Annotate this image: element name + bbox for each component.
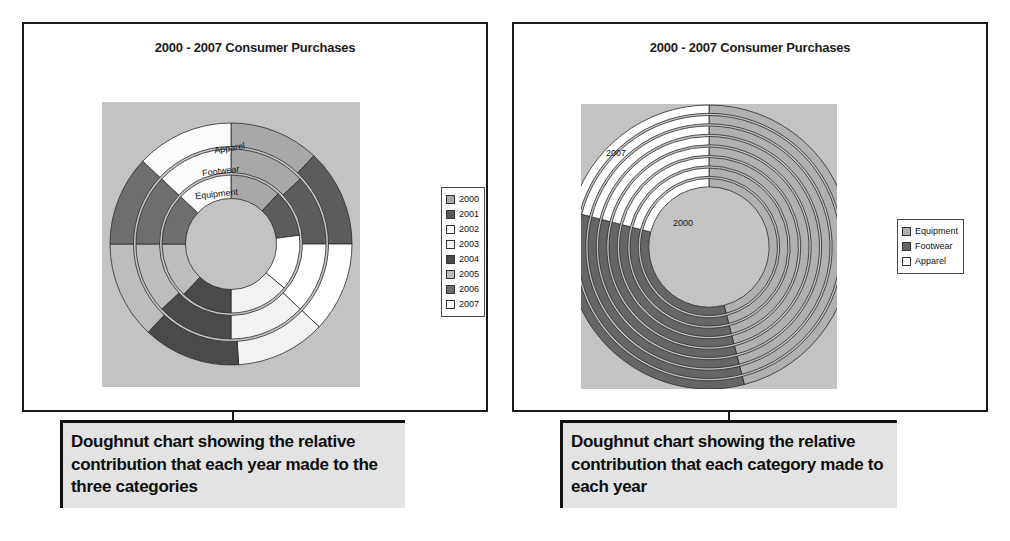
legend-item[interactable]: 2000 [446, 192, 479, 207]
legend-label: 2002 [459, 225, 479, 234]
ring-label-2000: 2000 [673, 218, 693, 228]
caption-box-left: Doughnut chart showing the relative cont… [60, 420, 405, 508]
legend-label: 2004 [459, 255, 479, 264]
legend-left[interactable]: 2000 2001 2002 2003 2004 2005 2006 2007 [441, 187, 485, 317]
legend-label: 2003 [459, 240, 479, 249]
chart-panel-left: 2000 - 2007 Consumer Purchases Apparel F… [22, 22, 488, 412]
caption-text-right: Doughnut chart showing the relative cont… [571, 431, 887, 499]
legend-item[interactable]: 2004 [446, 252, 479, 267]
doughnut-hole [651, 189, 767, 305]
legend-item[interactable]: Equipment [902, 224, 958, 239]
chart-title-right: 2000 - 2007 Consumer Purchases [514, 40, 986, 55]
legend-swatch-icon [902, 242, 911, 251]
legend-label: 2005 [459, 270, 479, 279]
legend-label: 2000 [459, 195, 479, 204]
plot-area-right: 2007 2000 [581, 104, 837, 389]
legend-label: Footwear [915, 242, 953, 251]
legend-label: 2001 [459, 210, 479, 219]
legend-item[interactable]: 2003 [446, 237, 479, 252]
legend-item[interactable]: 2002 [446, 222, 479, 237]
legend-swatch-icon [446, 240, 455, 249]
doughnut-chart-by-category [581, 104, 837, 389]
legend-item[interactable]: Apparel [902, 254, 958, 269]
doughnut-hole [188, 201, 274, 287]
legend-label: Apparel [915, 257, 946, 266]
legend-item[interactable]: 2005 [446, 267, 479, 282]
legend-label: Equipment [915, 227, 958, 236]
legend-swatch-icon [446, 270, 455, 279]
legend-item[interactable]: 2001 [446, 207, 479, 222]
legend-swatch-icon [446, 195, 455, 204]
legend-swatch-icon [446, 300, 455, 309]
legend-swatch-icon [446, 285, 455, 294]
legend-item[interactable]: Footwear [902, 239, 958, 254]
legend-swatch-icon [446, 210, 455, 219]
chart-title-left: 2000 - 2007 Consumer Purchases [24, 40, 486, 55]
chart-panel-right: 2000 - 2007 Consumer Purchases 2007 2000… [512, 22, 988, 412]
ring-label-2007: 2007 [606, 148, 626, 158]
legend-label: 2007 [459, 300, 479, 309]
caption-text-left: Doughnut chart showing the relative cont… [71, 431, 395, 499]
legend-swatch-icon [902, 257, 911, 266]
legend-label: 2006 [459, 285, 479, 294]
legend-item[interactable]: 2007 [446, 297, 479, 312]
legend-swatch-icon [902, 227, 911, 236]
plot-area-left: Apparel Footwear Equipment [102, 102, 360, 387]
legend-swatch-icon [446, 255, 455, 264]
legend-swatch-icon [446, 225, 455, 234]
legend-right[interactable]: Equipment Footwear Apparel [897, 219, 964, 274]
legend-item[interactable]: 2006 [446, 282, 479, 297]
caption-box-right: Doughnut chart showing the relative cont… [560, 420, 897, 508]
